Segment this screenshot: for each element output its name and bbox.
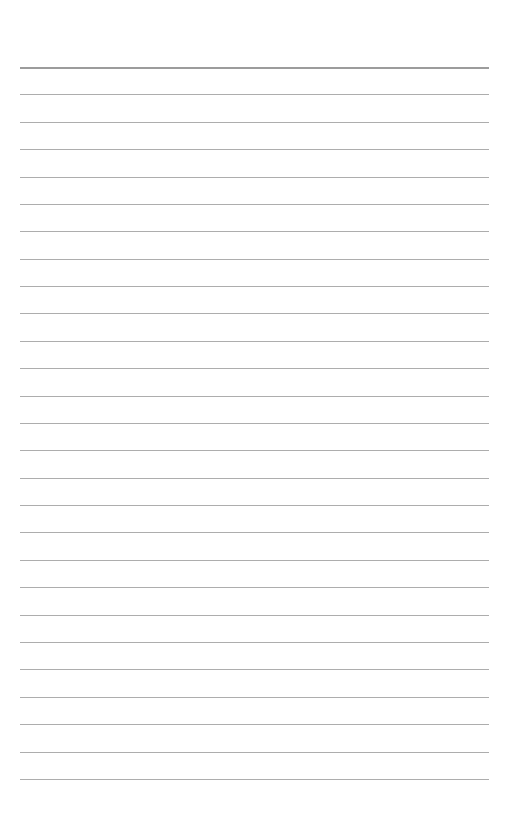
rule-line (20, 669, 489, 670)
rule-line (20, 724, 489, 725)
rule-line (20, 368, 489, 369)
rule-line (20, 615, 489, 616)
rule-line (20, 259, 489, 260)
rule-line (20, 505, 489, 506)
rule-line (20, 450, 489, 451)
rule-line (20, 697, 489, 698)
rule-line (20, 478, 489, 479)
rule-line (20, 204, 489, 205)
rule-line (20, 286, 489, 287)
rule-line (20, 560, 489, 561)
rule-line (20, 94, 489, 95)
rule-line (20, 642, 489, 643)
rule-line (20, 149, 489, 150)
rule-line (20, 587, 489, 588)
lined-paper-page (0, 0, 514, 819)
rule-line (20, 341, 489, 342)
rule-line (20, 396, 489, 397)
rule-line (20, 532, 489, 533)
rule-line (20, 313, 489, 314)
rule-line (20, 231, 489, 232)
rule-line (20, 122, 489, 123)
header-rule-line (20, 67, 489, 69)
rule-line (20, 752, 489, 753)
rule-line (20, 779, 489, 780)
rule-line (20, 177, 489, 178)
rule-line (20, 423, 489, 424)
